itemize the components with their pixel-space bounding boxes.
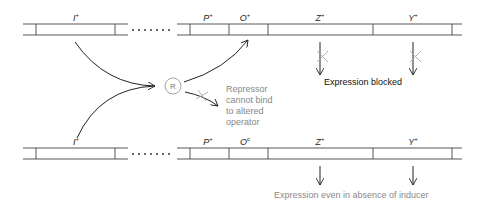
bottom-gene-label-y: Y+: [408, 136, 418, 147]
bottom-dna-gap-dots: [132, 153, 170, 155]
top-gene-label-y: Y+: [408, 12, 418, 23]
top-gene-label-i: I+: [73, 12, 79, 23]
top-gene-label-o: O+: [240, 12, 251, 23]
bottom-outcome-label: Expression even in absence of inducer: [274, 190, 429, 201]
repressor-label: R: [170, 82, 176, 91]
top-outcome-label: Expression blocked: [324, 77, 402, 87]
repressor-to-operator-arrow: [184, 40, 248, 82]
top-gene-label-z: Z+: [315, 12, 324, 23]
bottom-gene-label-i: I+: [73, 136, 79, 147]
top-dna-strand: [23, 24, 462, 35]
bottom-gene-label-z: Z+: [315, 136, 324, 147]
repressor-note-line: to altered: [226, 106, 273, 117]
bottom-i-to-repressor-arrow: [77, 86, 155, 138]
bottom-dna-strand: [23, 148, 462, 159]
bottom-gene-label-o: Oc: [240, 136, 250, 147]
top-z-blocked-x-icon: [317, 51, 328, 62]
repressor-note-line: Repressor: [226, 84, 273, 95]
repressor-note: Repressor cannot bind to altered operato…: [226, 84, 273, 128]
top-i-to-repressor-arrow: [75, 42, 155, 86]
repressor-note-line: operator: [226, 117, 273, 128]
top-y-blocked-x-icon: [410, 51, 421, 62]
bottom-gene-label-p: P+: [203, 136, 213, 147]
repressor-note-line: cannot bind: [226, 95, 273, 106]
top-gene-label-p: P+: [203, 12, 213, 23]
top-dna-gap-dots: [132, 29, 170, 31]
